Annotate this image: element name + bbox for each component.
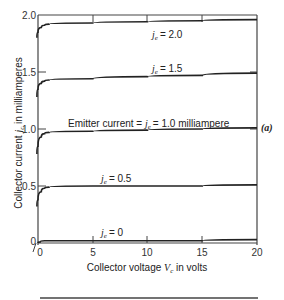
x-tick-10: 10 <box>141 247 153 258</box>
y-tick-1.5: 1.5 <box>22 67 36 78</box>
curve-label-0.5: je= 0.5 <box>99 173 132 186</box>
x-tick-labels: 0 5 10 15 20 <box>37 247 263 258</box>
curve-j-e-2.0 <box>37 20 257 38</box>
curve-label-1.0: Emitter current = je= 1.0 milliampere <box>68 118 230 131</box>
curve-label-1.5: je= 1.5 <box>150 63 183 76</box>
curve-label-0: je= 0 <box>99 227 124 240</box>
curve-j-e-0.5 <box>37 185 257 207</box>
x-axis-title: Collector voltage Vc in volts <box>87 262 207 275</box>
x-tick-5: 5 <box>90 247 96 258</box>
curve-label-2.0: je= 2.0 <box>150 29 183 42</box>
curve-j-e-1.0 <box>37 128 257 154</box>
x-tick-20: 20 <box>251 247 263 258</box>
x-tick-15: 15 <box>196 247 208 258</box>
transistor-characteristic-chart: 2.0 1.5 1.0 0.5 0 0 5 10 15 20 je= 2.0 j… <box>0 0 284 300</box>
y-tick-0.5: 0.5 <box>22 181 36 192</box>
curves <box>37 20 257 243</box>
curve-j-e-1.5 <box>37 73 257 97</box>
y-tick-2.0: 2.0 <box>22 10 36 21</box>
panel-label: (a) <box>261 122 273 134</box>
x-tick-0: 0 <box>37 247 43 258</box>
